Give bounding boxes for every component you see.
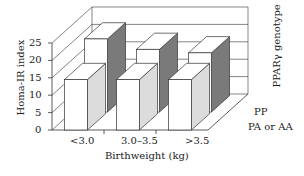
x-tick-1: 3.0–3.5 — [121, 135, 158, 146]
legend-series-pp: PP — [254, 106, 267, 117]
y-tick-0: 0 — [35, 124, 41, 135]
x-tick-0: <3.0 — [70, 135, 94, 146]
x-axis-label: Birthweight (kg) — [105, 150, 189, 161]
y-tick-25: 25 — [29, 37, 42, 48]
bar-pa-aa-0-front — [65, 80, 88, 130]
chart-root: Homa-IR index Birthweight (kg) PPARγ gen… — [0, 0, 304, 176]
y-tick-15: 15 — [29, 72, 42, 83]
y-axis-label: Homa-IR index — [15, 56, 26, 116]
legend-series-pa-aa: PA or AA — [248, 121, 293, 132]
bar-pa-aa-2-front — [169, 80, 192, 130]
bar-pa-aa-1-front — [117, 80, 140, 130]
y-tick-20: 20 — [29, 54, 42, 65]
y-tick-5: 5 — [35, 107, 41, 118]
x-tick-2: >3.5 — [185, 135, 209, 146]
depth-axis-label: PPARγ genotype — [271, 8, 282, 88]
y-tick-10: 10 — [29, 89, 42, 100]
